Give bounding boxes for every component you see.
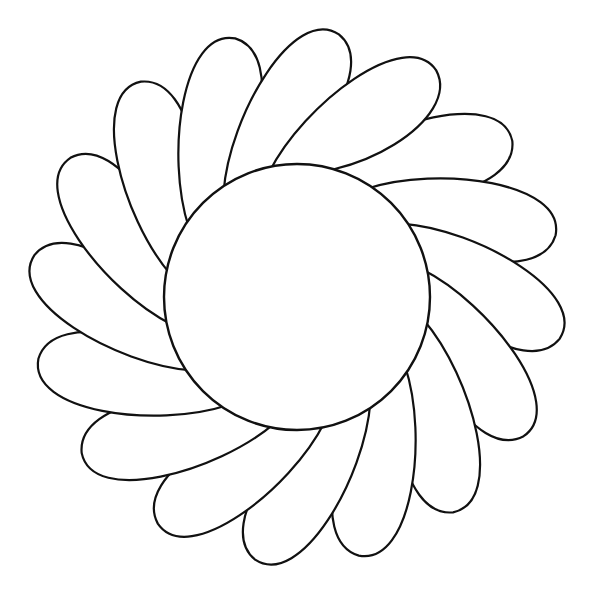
flower-drawing (0, 0, 595, 597)
center-circle (164, 164, 430, 430)
